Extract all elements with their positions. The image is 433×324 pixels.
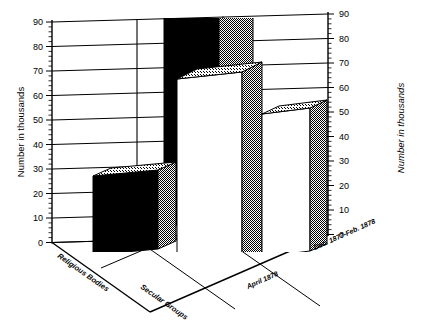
bar-religious-dec [93,162,176,255]
y2-tick-70: 70 [339,58,349,68]
chart-3d-bar: 90 80 70 60 50 40 30 20 10 0 Number in t… [0,0,433,324]
y-tick-20: 20 [33,189,43,199]
y2-tick-30: 30 [339,156,349,166]
chart-canvas: 90 80 70 60 50 40 30 20 10 0 Number in t… [0,0,433,324]
bar-april-right [262,100,327,257]
y-tick-0: 0 [38,238,43,248]
y-tick-30: 30 [33,164,43,174]
y-tick-40: 40 [33,140,43,150]
y2-tick-20: 20 [339,181,349,191]
y-tick-80: 80 [33,42,43,52]
y2-tick-90: 90 [339,9,349,19]
y2-tick-50: 50 [339,107,349,117]
y-tick-50: 50 [33,115,43,125]
left-axis-title: Number in thousands [15,87,26,178]
y2-tick-10: 10 [339,205,349,215]
y2-tick-60: 60 [339,83,349,93]
y-tick-90: 90 [33,17,43,27]
y-tick-70: 70 [33,66,43,76]
y-tick-10: 10 [33,213,43,223]
right-axis-title: Number in thousands [395,83,406,174]
y-tick-60: 60 [33,91,43,101]
y2-tick-40: 40 [339,132,349,142]
y2-tick-80: 80 [339,34,349,44]
